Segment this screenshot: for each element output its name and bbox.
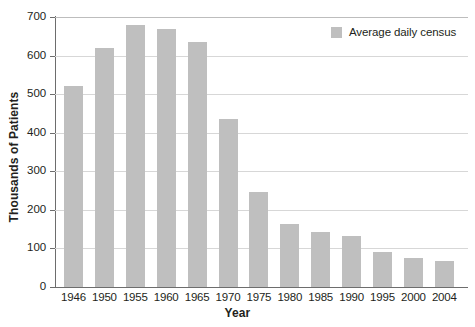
y-axis-title-label: Thousands of Patients (7, 47, 21, 267)
y-tick-label-300: 300 (10, 164, 46, 176)
y-tick-label-200: 200 (10, 203, 46, 215)
bar-1955 (126, 25, 145, 287)
bar-1946 (64, 86, 83, 287)
legend-swatch-average-daily-census (331, 27, 342, 38)
bar-1985 (311, 232, 330, 287)
bar-2004 (435, 261, 454, 287)
y-tick-label-100: 100 (10, 241, 46, 253)
chart-legend: Average daily census (331, 26, 456, 38)
bar-1950 (95, 48, 114, 287)
bar-1960 (157, 29, 176, 287)
bar-1990 (342, 236, 361, 287)
bar-2000 (404, 258, 423, 287)
y-tick-label-0: 0 (10, 280, 46, 292)
bar-1970 (219, 119, 238, 287)
x-axis-line (55, 287, 468, 288)
gridline-600 (55, 56, 468, 57)
bar-1965 (188, 42, 207, 287)
y-tick-label-600: 600 (10, 49, 46, 61)
plot-area (55, 17, 468, 287)
bar-1975 (249, 192, 268, 287)
gridline-500 (55, 94, 468, 95)
gridline-700 (55, 17, 468, 18)
bar-chart-figure: Thousands of Patients 700600500400300200… (0, 0, 475, 327)
gridline-300 (55, 171, 468, 172)
y-tick-label-500: 500 (10, 87, 46, 99)
y-tick-label-700: 700 (10, 10, 46, 22)
y-tick-label-400: 400 (10, 126, 46, 138)
gridline-400 (55, 133, 468, 134)
bar-1980 (280, 224, 299, 287)
x-tick-label-2004: 2004 (424, 291, 464, 303)
bar-1995 (373, 252, 392, 287)
legend-label-average-daily-census: Average daily census (349, 26, 456, 38)
figure-caption (0, 318, 475, 327)
